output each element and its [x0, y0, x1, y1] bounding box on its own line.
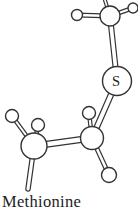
molecule-figure: S Methionine — [0, 0, 138, 208]
atom-hydrogen — [102, 168, 117, 183]
atom-carbon-ch2-left — [21, 133, 47, 159]
sulfur-label: S — [112, 73, 120, 89]
atom-hydrogen — [83, 107, 96, 120]
atom-hydrogen — [128, 3, 138, 13]
molecule-diagram: S — [0, 0, 138, 208]
atom-hydrogen — [6, 110, 19, 123]
atom-hydrogen — [32, 119, 45, 132]
atom-carbon-methyl — [100, 6, 120, 26]
atom-carbon-ch2-right — [81, 127, 104, 150]
atom-sulfur: S — [103, 67, 132, 96]
caption: Methionine — [2, 194, 81, 208]
atom-hydrogen — [72, 10, 83, 21]
